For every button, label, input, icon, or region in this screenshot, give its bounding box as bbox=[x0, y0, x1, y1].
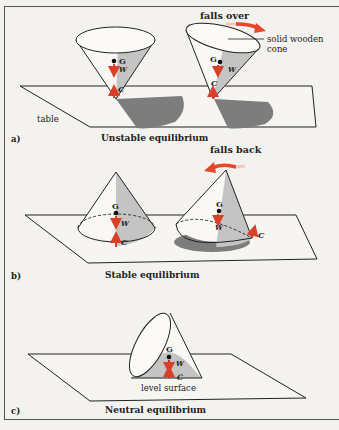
motion-blur bbox=[236, 166, 245, 167]
panel-label-c: c) bbox=[11, 406, 20, 416]
panel-b: G W C G W C falls back b) Stable equilib… bbox=[11, 144, 317, 281]
label-table: table bbox=[37, 114, 59, 124]
label-C: C bbox=[177, 373, 183, 382]
label-G: G bbox=[112, 201, 119, 211]
arrow-head-icon bbox=[254, 23, 266, 33]
panel-label-b: b) bbox=[11, 271, 21, 281]
label-W: W bbox=[215, 223, 224, 232]
panel-a: G W C G W C falls over solid wooden cone… bbox=[11, 10, 324, 144]
center-of-gravity-dot bbox=[217, 209, 222, 214]
label-falls-back: falls back bbox=[210, 144, 262, 155]
label-W: W bbox=[119, 65, 128, 74]
falls-back-arrow-icon bbox=[212, 165, 236, 168]
center-of-gravity-dot bbox=[114, 211, 119, 216]
label-C: C bbox=[121, 237, 128, 247]
caption-unstable: Unstable equilibrium bbox=[101, 133, 209, 143]
caption-neutral: Neutral equilibrium bbox=[105, 405, 207, 415]
center-of-gravity-dot bbox=[167, 355, 172, 360]
label-G: G bbox=[210, 54, 217, 64]
label-G: G bbox=[166, 344, 173, 354]
label-solid-wooden: solid wooden bbox=[267, 34, 324, 44]
falls-over-arrow-icon bbox=[236, 24, 258, 28]
cone-neutral bbox=[121, 308, 202, 383]
label-C: C bbox=[118, 84, 125, 94]
label-G: G bbox=[216, 199, 223, 209]
center-of-gravity-dot bbox=[218, 60, 223, 65]
panel-label-a: a) bbox=[11, 134, 21, 144]
label-falls-over: falls over bbox=[200, 10, 250, 21]
caption-stable: Stable equilibrium bbox=[105, 270, 200, 280]
arrow-head-icon bbox=[204, 162, 216, 173]
label-W: W bbox=[121, 219, 130, 228]
label-W: W bbox=[176, 359, 185, 368]
panel-c: G W C level surface c) Neutral equilibri… bbox=[11, 308, 306, 416]
label-cone: cone bbox=[267, 44, 287, 54]
label-level-surface: level surface bbox=[141, 383, 196, 393]
cone-stable-2 bbox=[176, 170, 252, 247]
label-W: W bbox=[228, 65, 237, 74]
label-C: C bbox=[211, 78, 218, 88]
table-plane-b bbox=[25, 215, 317, 263]
label-C: C bbox=[258, 230, 265, 240]
center-of-gravity-dot bbox=[112, 59, 117, 64]
